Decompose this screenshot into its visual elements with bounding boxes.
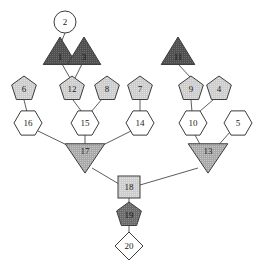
graph-node[interactable]: 10 [179, 111, 207, 135]
node-label: 8 [105, 84, 110, 94]
graph-edge [178, 64, 191, 78]
node-label: 14 [136, 118, 146, 128]
node-label: 9 [189, 84, 194, 94]
graph-edge [24, 100, 27, 112]
graph-node[interactable]: 6 [12, 76, 37, 100]
node-label: 3 [82, 52, 87, 62]
graph-edge [140, 168, 198, 185]
node-label: 12 [68, 84, 77, 94]
graph-node[interactable]: 17 [65, 144, 105, 173]
graph-node[interactable]: 15 [71, 111, 99, 135]
graph-node[interactable]: 4 [207, 76, 232, 100]
node-label: 17 [81, 146, 91, 156]
graph-node[interactable]: 7 [128, 76, 153, 100]
node-label: 6 [22, 84, 27, 94]
graph-edge [75, 64, 82, 78]
node-label: 16 [24, 118, 34, 128]
graph-node[interactable]: 9 [179, 76, 204, 100]
graph-edge [191, 100, 192, 112]
diagram-canvas: 2131161287941615141051713181920 [0, 0, 259, 276]
node-label: 19 [125, 210, 135, 220]
graph-node[interactable]: 11 [161, 37, 195, 65]
node-label: 2 [63, 17, 68, 27]
graph-edge [199, 99, 214, 112]
node-label: 5 [236, 118, 241, 128]
graph-node[interactable]: 12 [60, 76, 85, 100]
graph-node[interactable]: 3 [67, 37, 101, 65]
graph-node[interactable]: 16 [14, 111, 42, 135]
node-label: 18 [125, 182, 135, 192]
node-label: 10 [189, 118, 199, 128]
graph-svg: 2131161287941615141051713181920 [0, 0, 259, 276]
graph-node[interactable]: 19 [117, 202, 142, 226]
graph-node[interactable]: 18 [118, 176, 140, 198]
graph-edge [62, 64, 70, 78]
graph-edge [73, 100, 82, 112]
graph-edge [92, 168, 119, 184]
graph-node[interactable]: 8 [95, 76, 120, 100]
graph-node[interactable]: 2 [54, 11, 76, 33]
node-label: 1 [58, 52, 63, 62]
node-label: 15 [81, 118, 91, 128]
graph-node[interactable]: 5 [224, 111, 252, 135]
node-label: 20 [125, 241, 135, 251]
graph-edge [91, 99, 102, 112]
node-label: 4 [217, 84, 222, 94]
node-label: 13 [204, 146, 214, 156]
graph-node[interactable]: 20 [115, 232, 143, 260]
node-label: 11 [174, 52, 183, 62]
node-label: 7 [138, 84, 143, 94]
